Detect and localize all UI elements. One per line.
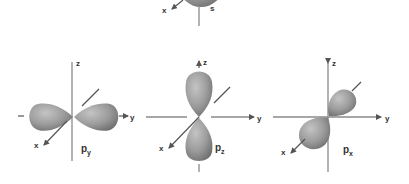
px-x-axis-back <box>352 82 361 91</box>
pz-upper-lobe <box>186 72 213 118</box>
pz-orbital-label: pz <box>215 142 225 155</box>
px-orbital-panel: z y x px <box>273 59 390 172</box>
px-back-lobe <box>328 89 356 116</box>
py-x-axis-back <box>82 89 99 106</box>
pz-y-axis-label: y <box>257 114 262 123</box>
s-orbital-sphere <box>179 0 223 7</box>
py-left-lobe <box>29 104 73 131</box>
orbital-diagram: x s z y x py z y x pz <box>0 0 409 184</box>
px-front-lobe <box>299 118 330 150</box>
pz-x-axis-label: x <box>159 144 164 153</box>
pz-lower-lobe <box>186 118 213 161</box>
s-x-axis <box>172 0 183 9</box>
px-orbital-label: px <box>343 144 353 157</box>
py-orbital-label: py <box>81 143 91 157</box>
s-x-axis-label: x <box>162 6 167 15</box>
py-y-axis-label: y <box>130 113 135 122</box>
py-right-lobe <box>74 104 118 131</box>
px-x-axis-front <box>291 139 305 153</box>
pz-x-axis-back <box>214 87 230 103</box>
py-z-axis-label: z <box>76 59 80 68</box>
px-x-axis-label: x <box>281 148 286 157</box>
py-orbital-panel: z y x py <box>18 59 135 161</box>
pz-z-axis-label: z <box>203 58 207 67</box>
py-x-axis-label: x <box>34 141 39 150</box>
px-z-axis-label: z <box>332 59 336 68</box>
s-orbital-label: s <box>210 4 215 13</box>
pz-orbital-panel: z y x pz <box>146 58 262 172</box>
px-y-axis-label: y <box>385 114 390 123</box>
s-orbital-panel: x s <box>162 0 223 26</box>
